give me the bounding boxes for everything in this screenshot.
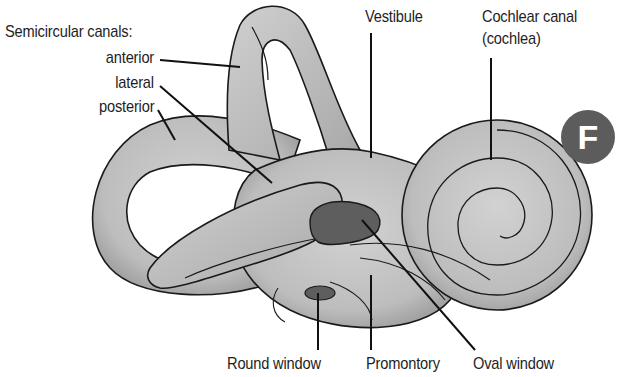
label-anterior: anterior	[106, 48, 154, 68]
label-lateral: lateral	[115, 73, 154, 93]
round-window	[305, 286, 335, 300]
label-semicircular-canals: Semicircular canals:	[5, 22, 132, 42]
label-promontory: Promontory	[366, 354, 440, 374]
label-posterior: posterior	[99, 97, 154, 117]
label-round-window: Round window	[227, 354, 321, 374]
label-oval-window: Oval window	[473, 354, 554, 374]
label-cochlea: (cochlea)	[482, 29, 541, 49]
figure-letter-badge: F	[561, 110, 615, 164]
label-vestibule: Vestibule	[365, 7, 423, 27]
labyrinth-illustration	[0, 0, 621, 377]
inner-ear-diagram: Semicircular canals: anterior lateral po…	[0, 0, 621, 377]
label-cochlear-canal: Cochlear canal	[482, 7, 577, 27]
